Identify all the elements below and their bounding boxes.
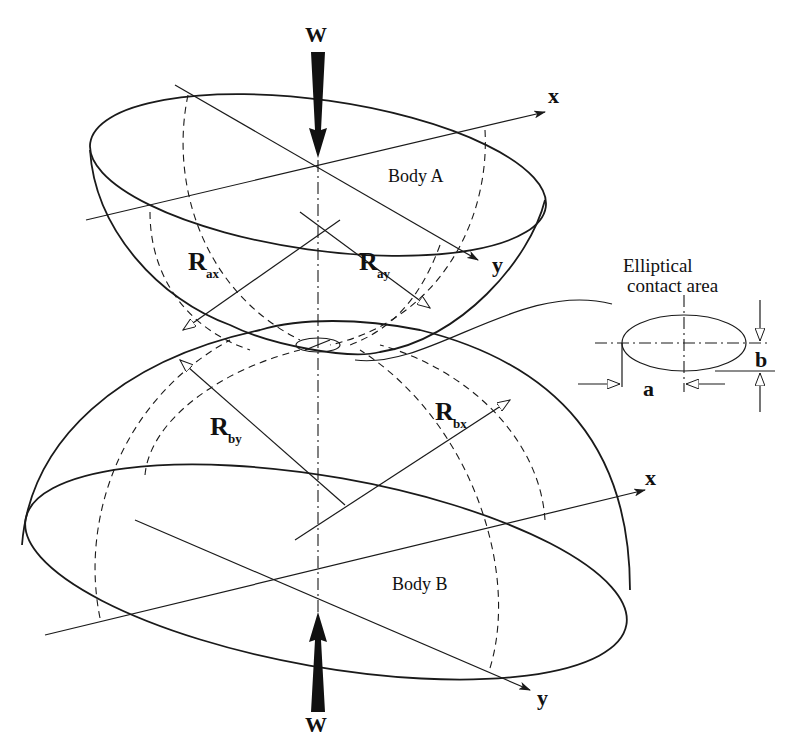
body-b-shell bbox=[22, 321, 630, 590]
contact-diagram: W W x y x y Body A Body B R ax R ay R by… bbox=[0, 0, 791, 738]
svg-text:ay: ay bbox=[377, 266, 391, 281]
dim-b-label: b bbox=[755, 347, 767, 372]
load-arrow-down-icon bbox=[309, 52, 327, 158]
radius-label-by: R by bbox=[210, 412, 242, 446]
load-arrow-up-icon bbox=[309, 612, 327, 712]
body-a-x-label: x bbox=[548, 83, 559, 108]
body-a-y-label: y bbox=[492, 252, 503, 277]
body-a-meridian bbox=[150, 212, 250, 350]
contact-caption-line1: Elliptical bbox=[623, 255, 693, 276]
radius-bx-arrow bbox=[295, 400, 510, 540]
body-b-y-axis bbox=[135, 520, 530, 690]
body-a-meridian bbox=[183, 95, 300, 340]
body-b-x-axis bbox=[45, 490, 645, 635]
body-b-x-label: x bbox=[645, 465, 656, 490]
radius-label-bx: R bx bbox=[435, 397, 467, 431]
svg-text:R: R bbox=[435, 397, 454, 426]
svg-text:bx: bx bbox=[453, 416, 467, 431]
body-b-y-label: y bbox=[537, 685, 548, 710]
svg-text:ax: ax bbox=[206, 266, 220, 281]
radius-by-arrow bbox=[180, 360, 345, 505]
svg-text:R: R bbox=[210, 412, 229, 441]
body-b-label: Body B bbox=[392, 574, 448, 594]
svg-text:R: R bbox=[188, 247, 207, 276]
contact-caption-line2: contact area bbox=[627, 275, 719, 296]
svg-text:R: R bbox=[359, 247, 378, 276]
svg-text:by: by bbox=[228, 431, 242, 446]
body-b-meridian bbox=[95, 340, 230, 618]
load-label-bottom: W bbox=[305, 712, 327, 737]
body-b-meridian bbox=[360, 350, 499, 668]
dim-a-label: a bbox=[643, 376, 654, 401]
radius-label-ax: R ax bbox=[188, 247, 220, 281]
load-label-top: W bbox=[305, 22, 327, 47]
radius-label-ay: R ay bbox=[359, 247, 391, 281]
body-a-label: Body A bbox=[388, 166, 444, 186]
body-a-meridian bbox=[330, 130, 485, 345]
contact-detail bbox=[578, 295, 775, 412]
body-b-rim bbox=[9, 425, 643, 718]
